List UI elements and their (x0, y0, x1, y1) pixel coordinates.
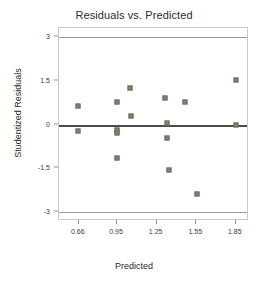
y-tick-mark (54, 211, 58, 212)
y-tick-label: 1.5 (24, 76, 50, 83)
y-tick-label: 0 (24, 120, 50, 127)
x-tick-mark (156, 220, 157, 224)
x-tick-label: 1.55 (177, 228, 213, 235)
data-point (129, 113, 134, 118)
x-tick-label: 1.25 (138, 228, 174, 235)
y-tick-mark (54, 35, 58, 36)
data-point (114, 155, 119, 160)
plot-area (58, 27, 248, 220)
zero-line (59, 125, 247, 127)
data-point (127, 85, 132, 90)
y-axis-label: Studentized Residuals (13, 43, 23, 183)
y-tick-label: -1.5 (24, 164, 50, 171)
upper-limit (59, 37, 247, 38)
y-tick-mark (54, 167, 58, 168)
data-point (76, 104, 81, 109)
chart-container: Residuals vs. Predicted Studentized Resi… (0, 0, 268, 285)
data-point (115, 100, 120, 105)
data-point (164, 135, 169, 140)
data-point (166, 168, 171, 173)
chart-title: Residuals vs. Predicted (0, 9, 268, 21)
y-tick-label: -3 (24, 208, 50, 215)
x-tick-mark (78, 220, 79, 224)
data-point (165, 121, 170, 126)
y-tick-mark (54, 123, 58, 124)
x-tick-label: 0.66 (60, 228, 96, 235)
data-point (115, 131, 120, 136)
data-point (234, 123, 239, 128)
x-tick-label: 1.85 (217, 228, 253, 235)
lower-limit (59, 212, 247, 213)
y-tick-mark (54, 79, 58, 80)
y-tick-label: 3 (24, 32, 50, 39)
data-point (162, 96, 167, 101)
data-point (195, 191, 200, 196)
data-point (76, 128, 81, 133)
x-tick-label: 0.95 (98, 228, 134, 235)
data-point (182, 100, 187, 105)
x-tick-mark (116, 220, 117, 224)
x-tick-mark (235, 220, 236, 224)
data-point (233, 78, 238, 83)
x-axis-label: Predicted (0, 261, 268, 271)
x-tick-mark (195, 220, 196, 224)
